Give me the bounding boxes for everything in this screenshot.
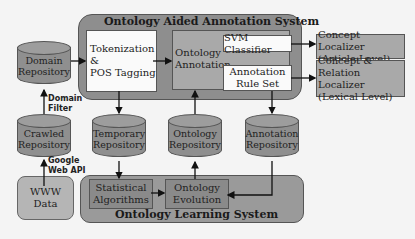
- arrows-layer: [0, 0, 415, 239]
